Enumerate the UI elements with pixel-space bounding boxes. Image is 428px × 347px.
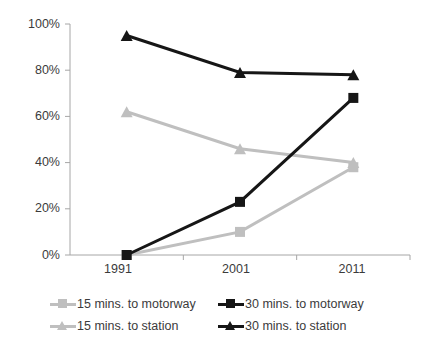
y-axis-ticks [65, 24, 70, 255]
axis-lines [70, 24, 410, 255]
series-30-mins-to-station [121, 30, 360, 80]
legend-label-30-mins-to-motorway: 30 mins. to motorway [245, 297, 364, 311]
series-15-mins-to-motorway [122, 162, 359, 260]
series-layer [121, 30, 360, 260]
chart-legend: 15 mins. to motorway 30 mins. to motorwa… [50, 293, 420, 337]
line-chart: 100% 80% 60% 40% 20% 0% 1991 2001 2011 1… [0, 0, 428, 347]
legend-marker-triangle-black-icon [218, 319, 244, 333]
legend-marker-triangle-gray-icon [50, 319, 76, 333]
data-point-marker [235, 197, 245, 207]
series-15-mins-to-station [121, 106, 360, 168]
legend-label-15-mins-to-station: 15 mins. to station [77, 319, 178, 333]
legend-label-30-mins-to-station: 30 mins. to station [245, 319, 346, 333]
legend-item-15-mins-to-station[interactable]: 15 mins. to station [50, 315, 218, 337]
legend-item-30-mins-to-station[interactable]: 30 mins. to station [218, 315, 418, 337]
legend-item-30-mins-to-motorway[interactable]: 30 mins. to motorway [218, 293, 418, 315]
legend-marker-square-black-icon [218, 297, 244, 311]
data-point-marker [235, 227, 245, 237]
legend-marker-square-gray-icon [50, 297, 76, 311]
series-line [127, 112, 354, 163]
legend-label-15-mins-to-motorway: 15 mins. to motorway [77, 297, 196, 311]
legend-item-15-mins-to-motorway[interactable]: 15 mins. to motorway [50, 293, 218, 315]
series-line [127, 167, 354, 255]
data-point-marker [348, 93, 358, 103]
data-point-marker [122, 250, 132, 260]
x-axis-ticks [183, 255, 410, 260]
